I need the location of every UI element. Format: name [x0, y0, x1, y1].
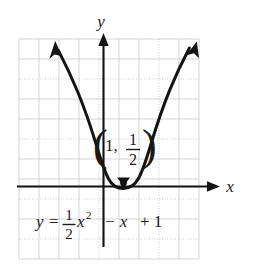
equation-lhs: y [34, 212, 44, 231]
vertex-label-y-denominator: 2 [129, 151, 137, 168]
y-axis-label: y [95, 12, 105, 31]
equation-coefficient-denominator: 2 [65, 226, 73, 242]
parabola-figure: x y ( 1, 1 2 ) [0, 0, 256, 267]
equation-constant-term: + 1 [140, 212, 162, 231]
equation-label: y = 1 2 x 2 − x + 1 [34, 207, 162, 242]
x-axis-arrow-icon [207, 181, 220, 191]
equation-quadratic-term: x [76, 212, 85, 231]
vertex-label: ( 1, 1 2 ) [93, 121, 157, 170]
parabola-curve [49, 41, 199, 189]
equation-exponent: 2 [86, 209, 92, 221]
equation-equals-sign: = [49, 212, 59, 231]
x-axis-label: x [225, 177, 234, 196]
graph-canvas: x y ( 1, 1 2 ) [0, 0, 256, 267]
vertex-label-y-numerator: 1 [129, 131, 137, 148]
vertex-label-x-value: 1, [105, 136, 118, 155]
equation-linear-term: − x [104, 212, 128, 231]
y-axis-arrow-icon [98, 33, 108, 46]
vertex-label-close-paren: ) [142, 121, 157, 170]
equation-coefficient-numerator: 1 [65, 207, 73, 223]
